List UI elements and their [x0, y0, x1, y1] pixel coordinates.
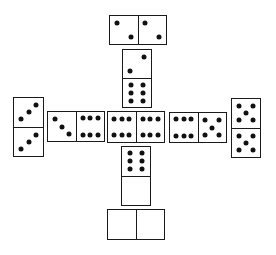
pip-dot-icon: [26, 110, 31, 115]
pip-dot-icon: [217, 132, 222, 137]
pip-dot-icon: [112, 116, 117, 121]
pip-dot-icon: [251, 104, 256, 109]
pip-dot-icon: [80, 116, 85, 121]
domino-west-three-six[interactable]: [47, 111, 105, 142]
domino-half-6-pips: [123, 78, 151, 107]
pip-dot-icon: [95, 116, 100, 121]
pip-dot-icon: [140, 167, 145, 172]
pip-dot-icon: [141, 91, 146, 96]
pip-dot-icon: [148, 116, 153, 121]
domino-half-3-pips: [48, 112, 76, 141]
domino-half-5-pips: [198, 113, 227, 142]
pip-dot-icon: [88, 132, 93, 137]
pip-dot-icon: [251, 147, 256, 152]
pip-dot-icon: [189, 117, 194, 122]
domino-far-east-five-five[interactable]: [231, 98, 261, 158]
pip-dot-icon: [95, 132, 100, 137]
domino-far-west-three-three[interactable]: [13, 97, 44, 157]
domino-top-double-two[interactable]: [109, 15, 167, 45]
pip-dot-icon: [119, 133, 124, 138]
domino-east-six-five[interactable]: [169, 112, 227, 143]
pip-dot-icon: [148, 133, 153, 138]
pip-dot-icon: [128, 91, 133, 96]
domino-half-0-pips: [108, 210, 136, 239]
domino-half-5-pips: [232, 128, 260, 158]
domino-half-0-pips: [136, 210, 165, 239]
pip-dot-icon: [127, 116, 132, 121]
domino-half-2-pips: [138, 16, 167, 44]
pip-dot-icon: [140, 159, 145, 164]
domino-half-5-pips: [232, 99, 260, 128]
pip-dot-icon: [128, 35, 133, 40]
pip-dot-icon: [237, 147, 242, 152]
pip-dot-icon: [140, 116, 145, 121]
pip-dot-icon: [127, 167, 132, 172]
domino-half-3-pips: [14, 98, 43, 127]
domino-half-6-pips: [76, 112, 105, 141]
domino-bottom-double-blank[interactable]: [107, 209, 165, 240]
pip-dot-icon: [140, 133, 145, 138]
pip-dot-icon: [244, 140, 249, 145]
pip-dot-icon: [155, 133, 160, 138]
pip-dot-icon: [155, 116, 160, 121]
pip-dot-icon: [174, 117, 179, 122]
pip-dot-icon: [26, 139, 31, 144]
domino-half-6-pips: [108, 112, 136, 142]
pip-dot-icon: [217, 118, 222, 123]
domino-half-6-pips: [136, 112, 165, 142]
pip-dot-icon: [210, 125, 215, 130]
pip-dot-icon: [142, 55, 147, 60]
domino-half-0-pips: [122, 176, 150, 206]
domino-half-6-pips: [122, 147, 150, 176]
pip-dot-icon: [128, 83, 133, 88]
pip-dot-icon: [189, 133, 194, 138]
pip-dot-icon: [33, 103, 38, 108]
domino-south-six-blank[interactable]: [121, 146, 151, 206]
domino-half-3-pips: [14, 127, 43, 157]
pip-dot-icon: [237, 104, 242, 109]
pip-dot-icon: [251, 133, 256, 138]
pip-dot-icon: [143, 21, 148, 26]
pip-dot-icon: [19, 146, 24, 151]
pip-dot-icon: [112, 133, 117, 138]
domino-half-2-pips: [110, 16, 138, 44]
pip-dot-icon: [244, 111, 249, 116]
pip-dot-icon: [119, 116, 124, 121]
pip-dot-icon: [80, 132, 85, 137]
pip-dot-icon: [33, 132, 38, 137]
pip-dot-icon: [127, 133, 132, 138]
pip-dot-icon: [140, 151, 145, 156]
pip-dot-icon: [203, 118, 208, 123]
pip-dot-icon: [19, 117, 24, 122]
pip-dot-icon: [203, 132, 208, 137]
pip-dot-icon: [128, 69, 133, 74]
pip-dot-icon: [59, 124, 64, 129]
pip-dot-icon: [174, 133, 179, 138]
pip-dot-icon: [141, 98, 146, 103]
pip-dot-icon: [128, 98, 133, 103]
pip-dot-icon: [52, 117, 57, 122]
domino-center-double-six[interactable]: [107, 111, 165, 143]
pip-dot-icon: [181, 117, 186, 122]
pip-dot-icon: [181, 133, 186, 138]
pip-dot-icon: [127, 159, 132, 164]
pip-dot-icon: [237, 133, 242, 138]
domino-north-two-six[interactable]: [122, 49, 152, 108]
pip-dot-icon: [114, 21, 119, 26]
pip-dot-icon: [237, 118, 242, 123]
domino-board: [0, 0, 276, 255]
pip-dot-icon: [88, 116, 93, 121]
domino-half-6-pips: [170, 113, 198, 142]
domino-half-2-pips: [123, 50, 151, 78]
pip-dot-icon: [127, 151, 132, 156]
pip-dot-icon: [141, 83, 146, 88]
pip-dot-icon: [251, 118, 256, 123]
pip-dot-icon: [66, 131, 71, 136]
pip-dot-icon: [157, 35, 162, 40]
